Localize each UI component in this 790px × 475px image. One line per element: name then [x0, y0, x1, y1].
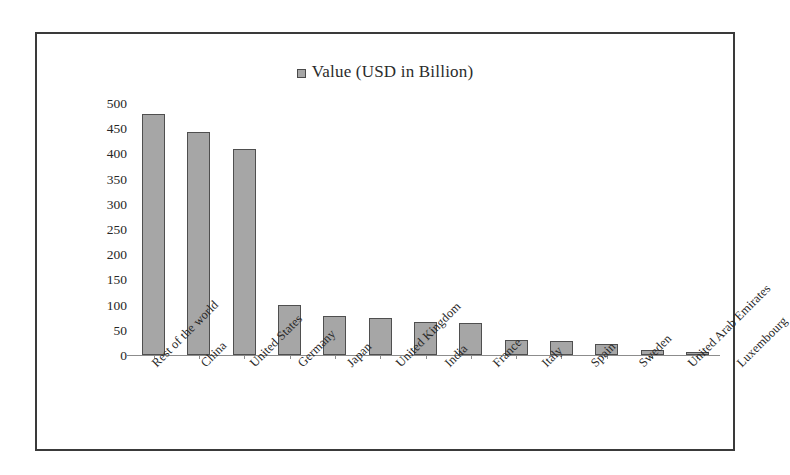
- x-axis-tickmark: [335, 355, 336, 359]
- bar[interactable]: [233, 149, 256, 355]
- bar-slot: [539, 104, 584, 355]
- y-axis-tick-label: 150: [87, 272, 127, 288]
- y-axis-tick-label: 50: [87, 323, 127, 339]
- y-axis-tick-label: 200: [87, 247, 127, 263]
- bar-slot: [358, 104, 403, 355]
- y-axis-tick-label: 350: [87, 172, 127, 188]
- bar-slot: [222, 104, 267, 355]
- y-axis-tick-label: 100: [87, 298, 127, 314]
- chart-figure: Value (USD in Billion) 50045040035030025…: [35, 32, 735, 451]
- x-axis-labels: Rest of the worldChinaUnited StatesGerma…: [131, 360, 764, 470]
- bar-slot: [584, 104, 629, 355]
- y-axis-tick-label: 450: [87, 121, 127, 137]
- y-axis-tick-label: 300: [87, 197, 127, 213]
- bar-slot: [494, 104, 539, 355]
- bar[interactable]: [142, 114, 165, 355]
- plot-area: 500450400350300250200150100500: [87, 104, 720, 356]
- x-axis-tickmark: [426, 355, 427, 359]
- bar-series-value: [131, 104, 720, 355]
- y-axis-tick-label: 250: [87, 222, 127, 238]
- legend-label-value: Value (USD in Billion): [312, 62, 474, 82]
- x-axis-tickmark: [516, 355, 517, 359]
- x-axis-tickmark: [471, 355, 472, 359]
- bar-slot: [131, 104, 176, 355]
- y-axis-tick-label: 0: [87, 348, 127, 364]
- y-axis-tick-label: 500: [87, 96, 127, 112]
- legend-swatch-value: [297, 69, 306, 78]
- y-axis-tick-label: 400: [87, 146, 127, 162]
- x-axis-tickmark: [380, 355, 381, 359]
- x-axis-tickmark: [290, 355, 291, 359]
- x-axis-tickmark: [244, 355, 245, 359]
- chart-legend: Value (USD in Billion): [37, 62, 733, 82]
- bar-slot: [629, 104, 674, 355]
- bar-slot: [675, 104, 720, 355]
- y-axis: 500450400350300250200150100500: [87, 104, 127, 356]
- bar-slot: [312, 104, 357, 355]
